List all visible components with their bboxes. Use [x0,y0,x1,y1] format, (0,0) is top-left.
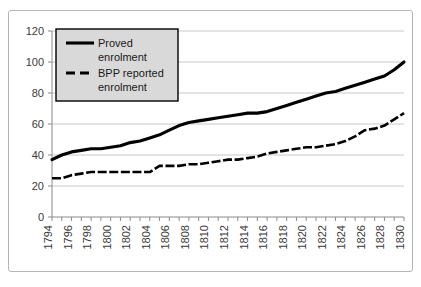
y-axis-tick-label: 120 [26,25,44,37]
chart-container: 0204060801001201794179617981800180218041… [0,0,421,287]
x-axis-tick-label: 1798 [81,225,93,249]
x-axis-tick-label: 1826 [355,225,367,249]
y-axis-tick-label: 40 [32,149,44,161]
x-axis-tick-label: 1806 [159,225,171,249]
y-axis-tick-label: 100 [26,56,44,68]
x-axis-tick-label: 1818 [277,225,289,249]
x-axis-tick-label: 1814 [238,225,250,249]
y-axis-tick-label: 80 [32,87,44,99]
x-axis-tick-label: 1820 [296,225,308,249]
x-axis-tick-label: 1808 [179,225,191,249]
legend-label-2: BPP reported [98,67,164,79]
x-axis-tick-label: 1796 [62,225,74,249]
x-axis-tick-label: 1802 [120,225,132,249]
x-axis-tick-label: 1812 [218,225,230,249]
y-axis-tick-label: 0 [38,211,44,223]
legend-label-2-line2: enrolment [98,81,147,93]
x-axis-tick-label: 1828 [374,225,386,249]
x-axis-tick-label: 1822 [316,225,328,249]
x-axis-tick-label: 1804 [140,225,152,249]
x-axis-tick-label: 1800 [101,225,113,249]
x-axis-tick-label: 1816 [257,225,269,249]
y-axis-tick-label: 20 [32,180,44,192]
x-axis-tick-label: 1830 [394,225,406,249]
line-chart-plot: 0204060801001201794179617981800180218041… [0,0,421,287]
data-series-2 [52,113,404,178]
x-axis-tick-label: 1794 [42,225,54,249]
x-axis-tick-label: 1824 [335,225,347,249]
x-axis-tick-label: 1810 [198,225,210,249]
legend-label-1: Proved [98,37,133,49]
y-axis-tick-label: 60 [32,118,44,130]
legend-label-1-line2: enrolment [98,51,147,63]
